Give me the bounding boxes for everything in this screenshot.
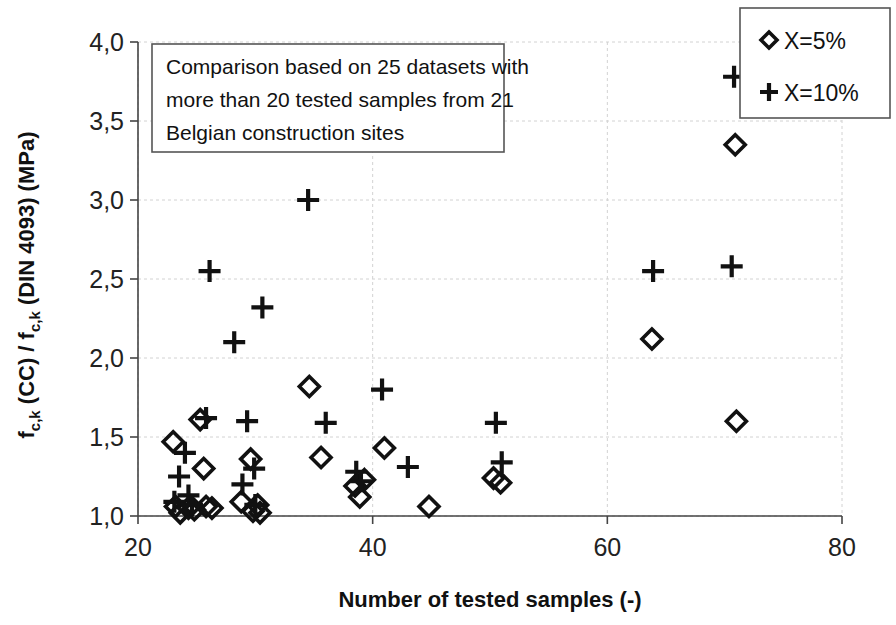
y-tick-label: 4,0 [89, 28, 124, 56]
y-tick-label: 1,5 [89, 423, 124, 451]
annotation-line-3: Belgian construction sites [166, 121, 404, 144]
x-tick-label: 20 [124, 533, 152, 561]
y-title-sub2: c,k [26, 311, 43, 333]
x-axis-title: Number of tested samples (-) [338, 587, 641, 612]
legend-label-0: X=5% [784, 28, 846, 54]
annotation-line-1: Comparison based on 25 datasets with [166, 55, 529, 78]
y-title-tail: (DIN 4093) (MPa) [14, 132, 39, 312]
y-title-sub1: c,k [26, 410, 43, 432]
legend-label-1: X=10% [784, 80, 859, 106]
svg-text:fc,k (CC) / fc,k (DIN 4093) (M: fc,k (CC) / fc,k (DIN 4093) (MPa) [14, 132, 43, 439]
scatter-chart: 1,01,52,02,53,03,54,0 20406080 fc,k (CC)… [0, 0, 896, 625]
y-axis-title: fc,k (CC) / fc,k (DIN 4093) (MPa) [14, 132, 43, 439]
annotation-line-2: more than 20 tested samples from 21 [166, 88, 514, 111]
x-tick-label: 40 [359, 533, 387, 561]
y-tick-label: 2,5 [89, 265, 124, 293]
y-title-mid: (CC) / f [14, 331, 39, 410]
x-tick-label: 80 [828, 533, 856, 561]
y-tick-label: 3,0 [89, 186, 124, 214]
x-tick-label: 60 [593, 533, 621, 561]
y-tick-label: 3,5 [89, 107, 124, 135]
annotation-box: Comparison based on 25 datasets with mor… [152, 44, 529, 152]
legend: X=5% X=10% [740, 8, 890, 118]
chart-canvas: 1,01,52,02,53,03,54,0 20406080 fc,k (CC)… [0, 0, 896, 625]
y-tick-label: 1,0 [89, 502, 124, 530]
y-tick-label: 2,0 [89, 344, 124, 372]
